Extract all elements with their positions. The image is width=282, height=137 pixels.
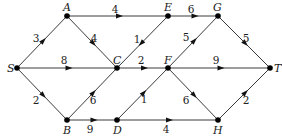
- graph-diagram: 38244126914659652 SABCDEFGHT: [0, 0, 282, 137]
- node-b: B: [62, 117, 71, 137]
- edge-weight-label: 1: [141, 93, 148, 105]
- node-t: T: [267, 62, 282, 75]
- edge-weight-label: 2: [33, 94, 40, 106]
- edge-weight-label: 6: [188, 3, 195, 15]
- node-dot: [14, 65, 20, 71]
- node-label: B: [62, 124, 71, 137]
- edge-weight-label: 3: [33, 32, 40, 44]
- edge-g-t: 5: [218, 16, 270, 68]
- edge-weight-label: 6: [183, 94, 190, 106]
- edge-weight-label: 2: [243, 94, 250, 106]
- edge-c-f: 2: [117, 54, 168, 70]
- node-label: E: [163, 1, 172, 14]
- node-dot: [215, 13, 221, 19]
- arrowhead-icon: [218, 66, 225, 71]
- node-dot: [165, 13, 171, 19]
- edge-weight-label: 9: [87, 123, 94, 135]
- edge-weight-label: 4: [91, 32, 98, 44]
- node-s: S: [7, 62, 20, 75]
- edge-f-g: 5: [168, 16, 218, 68]
- edge-e-g: 6: [168, 3, 218, 18]
- edge-b-d: 9: [67, 118, 117, 135]
- edge-h-t: 2: [218, 68, 270, 120]
- node-a: A: [62, 1, 71, 19]
- edge-a-e: 4: [67, 3, 168, 18]
- node-label: A: [62, 1, 71, 14]
- edge-f-t: 9: [168, 54, 270, 70]
- graph-canvas: 38244126914659652 SABCDEFGHT: [0, 0, 282, 137]
- node-dot: [215, 117, 221, 123]
- node-label: H: [212, 124, 223, 137]
- edge-s-b: 2: [17, 68, 67, 120]
- node-label: C: [113, 54, 122, 67]
- edge-weight-label: 8: [61, 54, 68, 66]
- node-dot: [267, 65, 273, 71]
- edge-weight-label: 1: [134, 33, 141, 45]
- edge-d-h: 4: [117, 118, 218, 135]
- edges-layer: 38244126914659652: [17, 3, 270, 135]
- node-label: S: [7, 62, 15, 75]
- edge-f-h: 6: [168, 68, 218, 120]
- node-label: G: [213, 1, 222, 14]
- node-dot: [64, 13, 70, 19]
- edge-d-f: 1: [117, 68, 168, 120]
- node-dot: [64, 117, 70, 123]
- edge-a-c: 4: [67, 16, 117, 68]
- edge-s-c: 8: [17, 54, 117, 70]
- edge-b-c: 6: [67, 68, 117, 120]
- edge-weight-label: 6: [90, 94, 97, 106]
- edge-weight-label: 2: [138, 54, 145, 66]
- node-dot: [114, 117, 120, 123]
- node-label: D: [112, 124, 122, 137]
- arrowhead-icon: [141, 66, 148, 71]
- arrowhead-icon: [166, 118, 173, 123]
- edge-weight-label: 4: [163, 123, 170, 135]
- edge-weight-label: 5: [183, 31, 190, 43]
- edge-weight-label: 5: [243, 32, 250, 44]
- edge-weight-label: 4: [112, 3, 119, 15]
- edge-s-a: 3: [17, 16, 67, 68]
- node-label: T: [274, 62, 282, 75]
- node-label: F: [163, 54, 172, 67]
- arrowhead-icon: [66, 66, 73, 71]
- arrowhead-icon: [91, 118, 98, 123]
- edge-weight-label: 9: [213, 54, 220, 66]
